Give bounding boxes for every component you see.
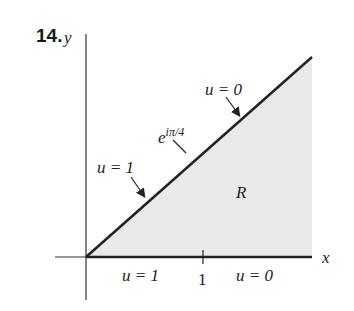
label-xaxis-right: u = 0	[236, 266, 273, 285]
region-label: R	[235, 183, 247, 202]
wedge-diagram: 14. y x R 1 u = 0 u = 1 u = 1 u = 0 eiπ/…	[0, 0, 354, 311]
tick-diagonal	[173, 140, 186, 153]
point-label-exponent: iπ/4	[166, 125, 185, 139]
point-label-e: eiπ/4	[158, 125, 184, 147]
problem-number: 14.	[36, 25, 62, 46]
label-diagonal-upper: u = 0	[205, 80, 242, 99]
figure: 14. y x R 1 u = 0 u = 1 u = 1 u = 0 eiπ/…	[0, 0, 354, 311]
label-diagonal-lower: u = 1	[97, 158, 134, 177]
x-axis-label: x	[321, 248, 330, 267]
tick-label-1: 1	[198, 270, 207, 289]
arrow-u0	[226, 97, 239, 115]
y-axis-label: y	[62, 28, 72, 47]
label-xaxis-left: u = 1	[122, 266, 159, 285]
arrow-u1	[131, 177, 144, 196]
